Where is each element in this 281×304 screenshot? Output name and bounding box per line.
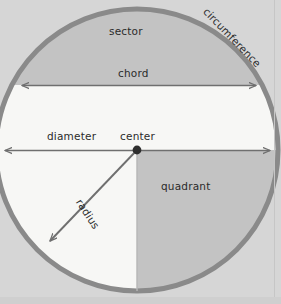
quadrant-shaded-region — [137, 150, 281, 304]
page-right-rule — [274, 0, 275, 297]
center-point-dot — [133, 146, 142, 155]
label-chord: chord — [118, 68, 149, 79]
label-quadrant: quadrant — [161, 181, 211, 192]
label-diameter: diameter — [47, 131, 96, 142]
page-bottom-band — [0, 297, 281, 304]
label-sector: sector — [109, 26, 143, 37]
label-center: center — [120, 131, 155, 142]
circle-diagram-canvas: sector chord diameter center quadrant ra… — [0, 0, 281, 304]
